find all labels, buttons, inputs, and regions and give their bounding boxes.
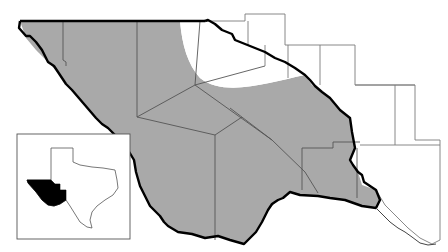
texas-inset [17,134,130,239]
region-map [0,0,448,252]
